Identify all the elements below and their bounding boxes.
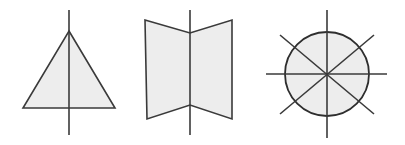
folded-screen-with-vertical-axis-shape (145, 20, 232, 119)
figure-folded-screen-with-vertical-axis (145, 10, 232, 135)
figure-triangle-with-vertical-axis (23, 10, 115, 135)
figure-circle-with-four-axes (266, 10, 387, 138)
diagram-svg (0, 0, 405, 145)
diagram-canvas (0, 0, 405, 145)
